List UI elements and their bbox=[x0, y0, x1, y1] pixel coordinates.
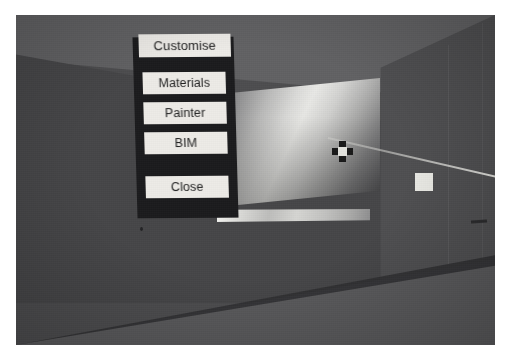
display-surface-shading bbox=[228, 78, 380, 206]
menu-item-painter[interactable]: Painter bbox=[143, 102, 227, 125]
screenshot-root: Customise Materials Painter BIM Close bbox=[0, 0, 510, 363]
floor-speck bbox=[140, 227, 143, 231]
reticle-arm-bottom bbox=[339, 155, 346, 162]
customise-menu-title: Customise bbox=[138, 34, 231, 58]
menu-item-materials[interactable]: Materials bbox=[142, 72, 226, 95]
menu-item-close[interactable]: Close bbox=[145, 176, 229, 199]
customise-menu-panel[interactable]: Customise Materials Painter BIM Close bbox=[132, 37, 238, 219]
selection-target[interactable] bbox=[415, 173, 433, 191]
display-light-strip bbox=[217, 209, 370, 222]
gradient-display-surface[interactable] bbox=[228, 78, 380, 206]
reticle-centre-hub bbox=[338, 147, 347, 156]
vr-scene-viewport[interactable]: Customise Materials Painter BIM Close bbox=[16, 15, 495, 345]
menu-item-bim[interactable]: BIM bbox=[144, 132, 228, 155]
pointer-reticle[interactable] bbox=[332, 141, 353, 162]
reticle-arm-right bbox=[346, 148, 353, 155]
